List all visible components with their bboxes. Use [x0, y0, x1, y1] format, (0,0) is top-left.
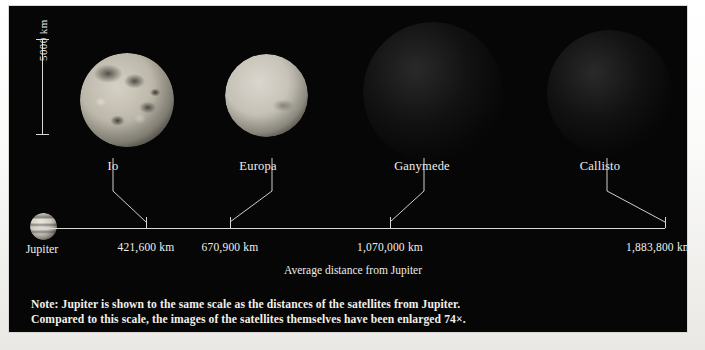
europa-limb-shading	[225, 54, 308, 137]
jupiter-disc-icon	[30, 213, 57, 240]
jupiter-satellites-figure: 5000 km Io Europa Ganymede Callisto	[9, 6, 687, 332]
moon-label-io: Io	[108, 159, 119, 174]
axis-tick-europa	[230, 217, 231, 228]
moon-label-europa: Europa	[239, 159, 276, 174]
jupiter-label: Jupiter	[26, 242, 59, 257]
axis-tick-callisto	[665, 217, 666, 228]
distance-label-callisto: 1,883,800 km	[626, 241, 687, 253]
scale-bar-bottom-cap	[36, 134, 49, 135]
ganymede-limb-shading	[363, 22, 503, 162]
jupiter-limb-shading	[30, 213, 57, 240]
distance-label-ganymede: 1,070,000 km	[357, 241, 423, 253]
moon-image-ganymede	[363, 22, 503, 162]
figure-note-line-2: Compared to this scale, the images of th…	[31, 313, 466, 328]
moon-image-callisto	[547, 30, 672, 155]
axis-tick-io	[146, 217, 147, 228]
moon-image-europa	[225, 54, 308, 137]
figure-root: 5000 km Io Europa Ganymede Callisto	[0, 0, 705, 350]
callisto-limb-shading	[547, 30, 672, 155]
distance-label-europa: 670,900 km	[202, 241, 259, 253]
axis-caption: Average distance from Jupiter	[284, 264, 422, 276]
axis-tick-ganymede	[390, 217, 391, 228]
figure-note-line-1: Note: Jupiter is shown to the same scale…	[31, 298, 466, 313]
distance-label-io: 421,600 km	[118, 241, 175, 253]
moon-image-io	[80, 53, 174, 147]
moon-label-ganymede: Ganymede	[394, 159, 450, 174]
figure-note: Note: Jupiter is shown to the same scale…	[31, 298, 466, 327]
distance-axis-line	[40, 228, 665, 229]
io-limb-shading	[80, 53, 174, 147]
scale-bar-label: 5000 km	[37, 19, 49, 61]
moon-label-callisto: Callisto	[580, 159, 621, 174]
